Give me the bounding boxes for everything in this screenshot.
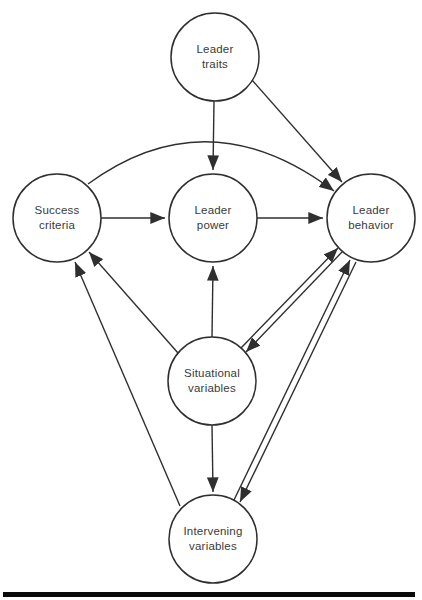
- node-leader-power-circle: [169, 174, 257, 262]
- edge-situational-variables-to-success-criteria: [89, 252, 178, 353]
- diagram-canvas: [0, 0, 422, 600]
- node-situational-variables-circle: [168, 337, 256, 425]
- node-leader-traits-circle: [171, 13, 259, 101]
- edge-intervening-variables-to-success-criteria: [75, 262, 180, 506]
- edge-situational-variables-to-intervening-variables: [212, 425, 213, 492]
- edge-leader-traits-to-leader-power: [213, 101, 214, 170]
- bottom-rule: [3, 592, 415, 597]
- diagram-page: Leader traits Success criteria Leader po…: [0, 0, 422, 600]
- node-success-criteria-circle: [13, 174, 101, 262]
- edge-situational-variables-to-leader-behavior: [241, 248, 338, 348]
- node-intervening-variables-circle: [169, 495, 257, 583]
- node-leader-behavior-circle: [327, 174, 415, 262]
- edge-situational-variables-to-leader-power: [212, 266, 213, 337]
- edge-leader-behavior-to-situational-variables: [246, 252, 342, 352]
